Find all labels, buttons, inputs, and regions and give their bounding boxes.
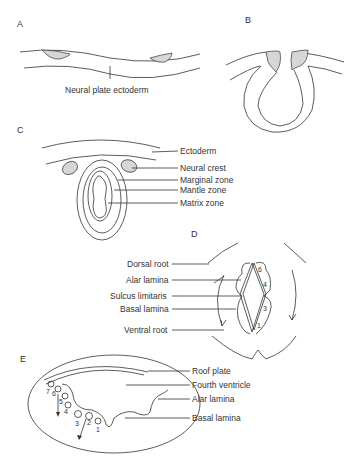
ectoderm-pointer <box>152 151 178 152</box>
label-ventral-root: Ventral root <box>124 325 168 335</box>
nucleus-label-4: 4 <box>64 408 68 415</box>
panel-b-letter: B <box>245 15 251 25</box>
roof-plate-line-2 <box>46 370 144 384</box>
label-fourth-ventricle: Fourth ventricle <box>192 380 251 390</box>
neural-development-diagram: A Neural plate ectoderm B C Ectoderm Neu <box>0 0 360 463</box>
arrowhead-2 <box>77 435 82 440</box>
neural-crest-b-left <box>266 51 281 72</box>
neural-plate-lower-line <box>24 66 200 78</box>
matrix-zone-outline <box>88 171 112 221</box>
label-sulcus-limitaris: Sulcus limitaris <box>110 291 167 301</box>
ectoderm-left-upper <box>226 52 266 65</box>
central-canal <box>93 176 107 218</box>
label-neural-crest: Neural crest <box>180 163 226 173</box>
label-mantle-zone: Mantle zone <box>180 185 227 195</box>
label-roof-plate: Roof plate <box>192 366 231 376</box>
region-4: 4 <box>263 281 267 288</box>
marginal-zone-outline <box>77 160 127 240</box>
nucleus-label-5: 5 <box>59 398 63 405</box>
ectoderm-right-lower <box>308 66 342 74</box>
panel-a: A Neural plate ectoderm <box>17 19 200 95</box>
neural-crest-b-right <box>291 50 308 70</box>
nucleus-label-3: 3 <box>75 420 79 427</box>
neural-tube-inner <box>258 70 303 126</box>
label-marginal-zone: Marginal zone <box>180 175 234 185</box>
ectoderm-upper <box>42 140 160 148</box>
panel-c: C Ectoderm Neural crest Marginal zone Ma… <box>17 125 234 240</box>
ectoderm-left-lower <box>230 66 260 80</box>
panel-e: E 7 6 5 4 3 2 1 Roof plate Fourth ventri… <box>20 354 251 453</box>
label-basal-lamina-d: Basal lamina <box>120 304 169 314</box>
dorsal-contour-left <box>208 243 238 263</box>
region-6: 6 <box>258 266 262 273</box>
ectoderm-lower <box>46 155 156 164</box>
label-dorsal-root: Dorsal root <box>127 259 169 269</box>
nucleus-label-6: 6 <box>52 390 56 397</box>
label-matrix-zone: Matrix zone <box>180 198 224 208</box>
label-basal-lamina-e: Basal lamina <box>192 413 241 423</box>
label-neural-plate-ectoderm: Neural plate ectoderm <box>65 85 149 95</box>
root-arrow-left <box>221 320 226 326</box>
region-3: 3 <box>263 305 267 312</box>
mantle-zone-outline <box>83 167 121 233</box>
brainstem-outline <box>28 355 200 453</box>
panel-d-letter: D <box>191 229 198 239</box>
nucleus-label-1: 1 <box>96 426 100 433</box>
nucleus-label-7: 7 <box>46 388 50 395</box>
nucleus-3 <box>75 411 82 418</box>
label-ectoderm: Ectoderm <box>180 146 216 156</box>
label-alar-lamina-d: Alar lamina <box>126 275 169 285</box>
alar-stub-left <box>214 276 224 283</box>
neural-crest-c-left <box>60 159 80 177</box>
ventral-root-right-arc <box>292 270 296 320</box>
ventral-contour <box>212 336 296 359</box>
neural-crest-c-right <box>119 158 138 175</box>
neural-tube-outer <box>244 66 314 132</box>
panel-b: B <box>226 15 344 132</box>
neural-crest-left <box>42 50 70 59</box>
nucleus-1 <box>95 418 101 424</box>
migration-arrow-2 <box>80 419 86 437</box>
nucleus-label-2: 2 <box>87 419 91 426</box>
panel-c-letter: C <box>17 125 24 135</box>
dorsal-contour-right <box>284 243 306 263</box>
region-1: 1 <box>257 322 261 329</box>
panel-a-letter: A <box>17 19 23 29</box>
label-alar-lamina-e: Alar lamina <box>192 394 235 404</box>
panel-d: D 6 4 3 1 Dorsal root Alar lamina Sulcus… <box>110 229 306 359</box>
panel-e-letter: E <box>20 354 26 364</box>
arrowhead-1 <box>56 412 60 417</box>
ventral-root-left-arc <box>217 275 224 326</box>
